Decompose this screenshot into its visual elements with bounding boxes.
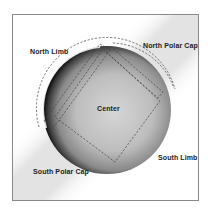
- label-north-limb: North Limb: [30, 48, 68, 55]
- label-south-polar-cap: South Polar Cap: [33, 168, 89, 175]
- label-south-limb: South Limb: [158, 154, 198, 161]
- label-north-polar-cap: North Polar Cap: [143, 42, 198, 49]
- label-center: Center: [97, 105, 120, 112]
